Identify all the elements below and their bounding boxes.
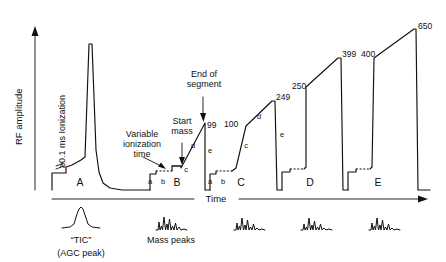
segment-label-e: E: [374, 176, 381, 188]
variable-ionization-label-line3: time: [133, 149, 150, 159]
segment-label-c: C: [237, 176, 245, 188]
end-of-segment-arrow-icon: [200, 97, 206, 122]
step-label-c-d: d: [257, 112, 261, 121]
start-mass-label-line2: mass: [171, 126, 193, 136]
mass-peak-cluster-icon-1: [156, 217, 187, 230]
y-axis: [32, 26, 39, 190]
tic-peak-icon: [62, 207, 100, 228]
start-mass-label-line1: Start: [172, 116, 192, 126]
mass-peak-cluster-icon-4: [369, 218, 400, 230]
mass-value-c-start: 100: [224, 119, 238, 129]
step-label-b-a: a: [148, 177, 153, 186]
step-label-b-d: d: [191, 141, 195, 150]
y-axis-label: RF amplitude: [13, 89, 24, 146]
step-label-b-c: c: [184, 165, 188, 174]
segment-label-a: A: [76, 176, 83, 188]
tic-caption-line1: “TIC”: [71, 235, 92, 245]
mass-value-c-end: 249: [276, 92, 290, 102]
end-of-segment-label-line1: End of: [191, 69, 218, 79]
mass-value-e-start: 400: [361, 49, 375, 59]
x-axis-label: Time: [206, 193, 227, 204]
segment-label-b: B: [173, 176, 180, 188]
tic-caption-line2: (AGC peak): [57, 248, 105, 258]
variable-ionization-label-line2: ionization: [123, 139, 161, 149]
mass-peak-cluster-icon-3: [301, 218, 332, 230]
mass-value-d-start: 250: [292, 81, 306, 91]
mass-value-d-end: 399: [342, 49, 356, 59]
mass-peak-cluster-icon-2: [234, 218, 265, 230]
x-axis: [52, 196, 428, 203]
rf-amplitude-timing-diagram: RF amplitude ≥0.1 ms Ionization Time Var…: [0, 0, 446, 262]
waveform-segment-d: [282, 58, 348, 190]
step-label-b-e: e: [208, 146, 212, 155]
mass-value-b-end: 99: [207, 120, 217, 130]
ionization-label: ≥0.1 ms Ionization: [57, 95, 67, 168]
mass-peaks-caption: Mass peaks: [147, 235, 196, 245]
step-label-c-a: a: [208, 177, 213, 186]
y-axis-arrow-icon: [32, 26, 39, 36]
variable-ionization-label-line1: Variable: [126, 129, 158, 139]
mass-value-e-end: 650: [418, 21, 432, 31]
step-label-c-e: e: [280, 130, 284, 139]
end-of-segment-label-line2: segment: [187, 79, 222, 89]
x-axis-arrow-icon: [418, 196, 428, 203]
segment-label-d: D: [306, 176, 314, 188]
step-label-b-b: b: [161, 177, 165, 186]
step-label-c-c: c: [244, 141, 248, 150]
step-label-c-b: b: [221, 177, 225, 186]
